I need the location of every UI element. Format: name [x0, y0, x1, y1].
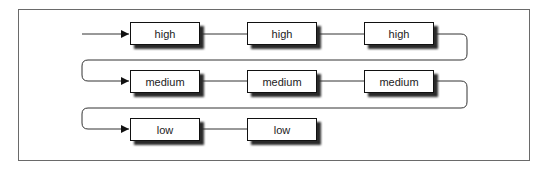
node-high-2: high [247, 22, 317, 45]
node-label: low [247, 118, 317, 141]
node-high-1: high [130, 22, 200, 45]
node-low-1: low [130, 118, 200, 141]
node-label: low [130, 118, 200, 141]
node-label: high [247, 22, 317, 45]
node-medium-3: medium [364, 70, 434, 93]
node-label: medium [247, 70, 317, 93]
node-label: high [364, 22, 434, 45]
node-label: medium [130, 70, 200, 93]
node-high-3: high [364, 22, 434, 45]
node-label: high [130, 22, 200, 45]
node-low-2: low [247, 118, 317, 141]
node-medium-2: medium [247, 70, 317, 93]
node-label: medium [364, 70, 434, 93]
node-medium-1: medium [130, 70, 200, 93]
